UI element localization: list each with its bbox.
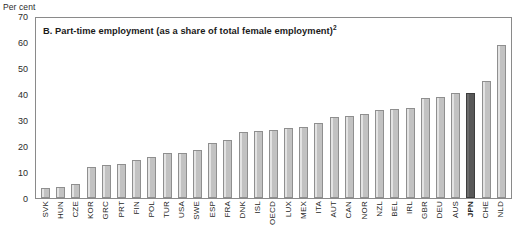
bar [41,188,50,198]
bar [436,97,445,198]
bar-slot [494,18,509,198]
x-axis-tick-label: NZL [376,201,384,217]
bar [117,164,126,198]
bar-slot [68,18,83,198]
x-axis-tick-label: IRL [406,201,414,214]
x-axis-tick-label: OECD [269,201,277,225]
x-axis-tick-label: PRT [118,201,126,217]
x-axis-tick-label: SVK [42,201,50,218]
bar [269,130,278,198]
x-axis-label-slot: USA [175,200,190,246]
bar [314,123,323,198]
bar [223,140,232,198]
bar-slot [387,18,402,198]
x-axis-tick-label: JPN [467,201,475,217]
bar [421,98,430,198]
x-axis-tick-label: AUT [330,201,338,218]
bar [406,108,415,199]
x-axis-tick-label: POL [148,201,156,218]
x-axis-label-slot: CZE [68,200,83,246]
y-axis-tick-label: 40 [18,91,28,100]
bar [208,143,217,198]
x-axis-label-slot: ITA [311,200,326,246]
bar [56,187,65,198]
bar [193,150,202,198]
bar-slot [296,18,311,198]
x-axis-label-slot: CAN [342,200,357,246]
x-axis-tick-label: CAN [345,201,353,219]
bar-slot [372,18,387,198]
x-axis-tick-label: ISL [254,201,262,214]
bar-slot [463,18,478,198]
x-axis-label-slot: FIN [129,200,144,246]
x-axis-label-slot: POL [144,200,159,246]
bar [497,45,506,199]
bar-slot [342,18,357,198]
y-axis-tick-label: 10 [18,169,28,178]
x-axis-label-slot: AUT [327,200,342,246]
x-axis-label-slot: NZL [372,200,387,246]
x-axis-tick-label: AUS [452,201,460,218]
x-axis-tick-label: NLD [497,201,505,218]
bar [330,117,339,198]
bar [254,131,263,198]
x-axis-label-slot: DNK [235,200,250,246]
bar [147,157,156,198]
bar [178,153,187,199]
x-axis-label-slot: MEX [296,200,311,246]
bar-slot [220,18,235,198]
x-axis-tick-label: CZE [72,201,80,218]
bar-highlighted [466,93,475,198]
bar-slot [478,18,493,198]
bar-slot [205,18,220,198]
x-axis-tick-label: ITA [315,201,323,213]
bar [87,167,96,198]
bar [360,114,369,198]
y-axis-tick-label: 0 [23,195,28,204]
x-axis-label-slot: OECD [266,200,281,246]
bar-slot [448,18,463,198]
y-axis: 010203040506070 [0,17,35,199]
x-axis-label-slot: PRT [114,200,129,246]
bar-slot [190,18,205,198]
x-axis-label-slot: AUS [448,200,463,246]
x-axis-label-slot: HUN [53,200,68,246]
bar [375,110,384,198]
bar [163,153,172,198]
bar [451,93,460,198]
x-axis-label-slot: SWE [190,200,205,246]
x-axis-tick-label: NOR [361,201,369,219]
x-axis-label-slot: GBR [418,200,433,246]
bar-slot [311,18,326,198]
bar-slot [84,18,99,198]
bar-slot [235,18,250,198]
y-axis-unit-label: Per cent [3,2,35,12]
x-axis-label-slot: LUX [281,200,296,246]
x-axis-label-slot: ISL [251,200,266,246]
bar-slot [418,18,433,198]
x-axis-label-slot: NOR [357,200,372,246]
x-axis-tick-label: MEX [300,201,308,219]
bar-slot [99,18,114,198]
bar [284,128,293,198]
x-axis-label-slot: GRC [99,200,114,246]
bar-slot [160,18,175,198]
x-axis-tick-label: USA [178,201,186,218]
x-axis-labels: SVKHUNCZEKORGRCPRTFINPOLTURUSASWEESPFRAD… [36,200,511,246]
bars-container [36,18,511,198]
bar-slot [251,18,266,198]
y-axis-tick-label: 20 [18,143,28,152]
x-axis-label-slot: DEU [433,200,448,246]
bar [239,132,248,198]
bar [345,116,354,198]
x-axis-tick-label: CHE [482,201,490,219]
bar-slot [144,18,159,198]
x-axis-label-slot: JPN [463,200,478,246]
bar-slot [357,18,372,198]
y-axis-tick-label: 70 [18,13,28,22]
x-axis-tick-label: GBR [421,201,429,219]
bar-slot [327,18,342,198]
bar [482,81,491,199]
x-axis-tick-label: FRA [224,201,232,218]
x-axis-label-slot: TUR [160,200,175,246]
